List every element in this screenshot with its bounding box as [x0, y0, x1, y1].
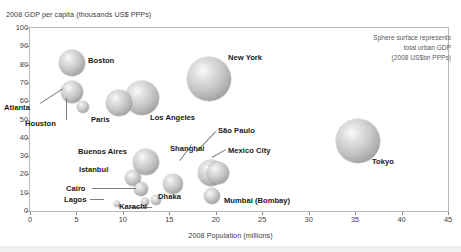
y-tick-mark [26, 193, 29, 194]
y-tick-mark [26, 138, 29, 139]
y-tick-mark [26, 156, 29, 157]
city-label-sao-paulo: São Paulo [218, 127, 255, 135]
bubble-atlanta [61, 81, 83, 103]
y-tick-mark [26, 211, 29, 212]
leader-line [66, 98, 67, 120]
y-axis-title: 2008 GDP per capita (thousands US$ PPPs) [6, 10, 151, 19]
x-tick-label: 40 [392, 216, 412, 223]
x-tick-mark [76, 212, 77, 215]
x-tick-mark [169, 212, 170, 215]
y-tick-label: 40 [4, 134, 28, 141]
city-label-los-angeles: Los Angeles [150, 114, 195, 122]
x-tick-label: 15 [159, 216, 179, 223]
x-tick-mark [123, 212, 124, 215]
bottom-strip [0, 246, 461, 252]
city-label-atlanta: Atlanta [4, 104, 30, 112]
city-label-tokyo: Tokyo [372, 158, 394, 166]
city-label-karachi: Karachi [119, 203, 147, 211]
city-label-boston: Boston [88, 57, 114, 65]
city-label-buenos-aires: Buenos Aires [78, 148, 127, 156]
city-label-new-york: New York [228, 54, 262, 62]
leader-line [92, 188, 136, 189]
x-axis-title: 2008 Population (millions) [0, 231, 461, 240]
x-tick-label: 30 [299, 216, 319, 223]
x-tick-mark [355, 212, 356, 215]
x-tick-mark [402, 212, 403, 215]
legend-line-2: total urban GDP [335, 43, 451, 53]
city-label-istanbul: Istanbul [79, 166, 108, 174]
y-tick-label: 30 [4, 152, 28, 159]
bubble-houston [77, 101, 89, 113]
x-tick-label: 25 [252, 216, 272, 223]
city-label-cairo: Cairo [66, 185, 86, 193]
leader-line [90, 199, 104, 200]
bubble-paris [106, 90, 132, 116]
x-tick-label: 45 [438, 216, 458, 223]
bubble-chart: 2008 GDP per capita (thousands US$ PPPs)… [0, 0, 461, 252]
city-label-lagos: Lagos [64, 196, 86, 204]
y-tick-label: 100 [4, 24, 28, 31]
y-tick-mark [26, 83, 29, 84]
x-tick-label: 0 [20, 216, 40, 223]
city-label-shanghai: Shanghai [170, 145, 204, 153]
x-tick-label: 35 [345, 216, 365, 223]
x-tick-mark [448, 212, 449, 215]
x-tick-mark [309, 212, 310, 215]
bubble-mexico-city [207, 162, 229, 184]
y-tick-label: 90 [4, 42, 28, 49]
city-label-houston: Houston [25, 120, 56, 128]
y-tick-label: 20 [4, 170, 28, 177]
x-tick-label: 10 [113, 216, 133, 223]
size-legend-note: Sphere surface represents total urban GD… [335, 33, 451, 64]
legend-line-3: (2008 US$bn PPPs) [335, 53, 451, 63]
x-tick-label: 20 [206, 216, 226, 223]
y-tick-mark [26, 65, 29, 66]
x-tick-mark [262, 212, 263, 215]
city-label-paris: Paris [91, 116, 110, 124]
x-tick-label: 5 [66, 216, 86, 223]
y-tick-mark [26, 46, 29, 47]
city-label-mumbai: Mumbai (Bombay) [224, 197, 290, 205]
bubble-boston [59, 50, 85, 76]
city-label-mexico-city: Mexico City [228, 147, 270, 155]
y-tick-mark [26, 28, 29, 29]
x-tick-mark [30, 212, 31, 215]
y-tick-mark [26, 174, 29, 175]
bubble-shanghai [163, 174, 183, 194]
y-tick-label: 10 [4, 189, 28, 196]
y-tick-label: 0 [4, 207, 28, 214]
city-label-dhaka: Dhaka [158, 193, 181, 201]
y-tick-label: 80 [4, 61, 28, 68]
legend-line-1: Sphere surface represents [335, 33, 451, 43]
y-tick-label: 70 [4, 79, 28, 86]
x-tick-mark [216, 212, 217, 215]
